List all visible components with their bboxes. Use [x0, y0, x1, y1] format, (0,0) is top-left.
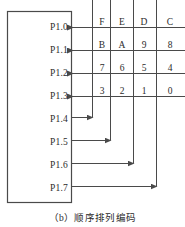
key-cell-2: 2 — [113, 86, 131, 96]
port-label-p1-1: P1.1 — [28, 45, 68, 55]
key-cell-e: E — [113, 17, 131, 27]
key-cell-9: 9 — [135, 40, 153, 50]
port-label-p1-5: P1.5 — [28, 137, 68, 147]
port-label-p1-2: P1.2 — [28, 68, 68, 78]
key-cell-a: A — [113, 40, 131, 50]
key-cell-1: 1 — [135, 86, 153, 96]
key-cell-4: 4 — [161, 63, 179, 73]
key-cell-c: C — [161, 17, 179, 27]
key-cell-8: 8 — [161, 40, 179, 50]
port-label-p1-3: P1.3 — [28, 91, 68, 101]
key-cell-5: 5 — [135, 63, 153, 73]
figure-caption: （b）顺序排列编码 — [0, 210, 185, 224]
key-cell-f: F — [93, 17, 111, 27]
port-block-outline — [8, 12, 72, 203]
port-label-p1-0: P1.0 — [28, 22, 68, 32]
key-cell-0: 0 — [161, 86, 179, 96]
port-label-p1-7: P1.7 — [28, 183, 68, 193]
port-label-p1-6: P1.6 — [28, 160, 68, 170]
key-cell-3: 3 — [93, 86, 111, 96]
key-cell-7: 7 — [93, 63, 111, 73]
key-cell-6: 6 — [113, 63, 131, 73]
key-cell-b: B — [93, 40, 111, 50]
key-cell-d: D — [135, 17, 153, 27]
port-label-p1-4: P1.4 — [28, 114, 68, 124]
figure-root: P1.0 P1.1 P1.2 P1.3 P1.4 P1.5 P1.6 P1.7 … — [0, 0, 185, 227]
